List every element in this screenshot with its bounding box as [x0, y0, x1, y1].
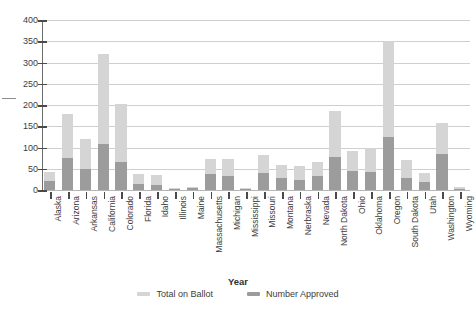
legend-label: Number Approved	[266, 289, 339, 299]
chart-legend: Total on BallotNumber Approved	[0, 289, 476, 299]
x-axis-category-label-text: Arkansas	[90, 196, 99, 231]
bar-group	[149, 20, 167, 190]
y-axis-tick-label: 200	[23, 101, 38, 110]
x-axis-category-label: Mississippi	[251, 155, 260, 196]
x-axis-category-label: Maine	[197, 173, 206, 196]
x-axis-category-label-text: Utah	[429, 196, 438, 214]
bar-number-approved	[329, 157, 340, 190]
x-axis-category-labels: AlaskaArizonaArkansasCaliforniaColoradoF…	[42, 196, 470, 272]
x-axis-category-label-text: North Dakota	[340, 196, 349, 246]
legend-item[interactable]: Total on Ballot	[137, 289, 213, 299]
x-axis-category-label-text: Massachusetts	[215, 196, 224, 253]
x-axis-category-label: Alaska	[54, 170, 63, 196]
x-axis-category-label: Illinois	[179, 172, 188, 196]
x-axis-category-label-text: Oregon	[393, 196, 402, 224]
bar-number-approved	[205, 174, 216, 190]
x-axis-category-label: Michigan	[233, 162, 242, 196]
x-axis-category-label-text: Nevada	[322, 196, 331, 225]
x-axis-category-label: Utah	[429, 178, 438, 196]
x-axis-category-label: Massachusetts	[215, 139, 224, 196]
y-axis-tick-labels: 050100150200250300350400	[10, 13, 38, 191]
x-axis-category-label: Arizona	[72, 167, 81, 196]
bar-number-approved	[98, 144, 109, 190]
x-axis-category-label-text: Montana	[286, 196, 295, 229]
x-axis-category-label-text: Washington	[447, 196, 456, 241]
x-axis-category-label-text: California	[108, 196, 117, 232]
x-axis-category-label: California	[108, 160, 117, 196]
x-axis-category-label-text: Nerbraska	[304, 196, 313, 235]
x-axis-category-label: Washington	[447, 151, 456, 196]
x-axis-category-label-text: Ohio	[358, 196, 367, 214]
legend-swatch-icon	[137, 292, 150, 296]
x-axis-category-label: Florida	[144, 170, 153, 196]
x-axis-title: Year	[0, 276, 476, 287]
x-axis-category-label: Oregon	[393, 168, 402, 196]
bar-group	[42, 20, 60, 190]
y-axis-tick-label: 100	[23, 143, 38, 152]
y-axis-tick-label: 400	[23, 16, 38, 25]
x-axis-category-label-text: Oklahoma	[375, 196, 384, 235]
bar-group	[167, 20, 185, 190]
x-axis-category-label-text: Arizona	[72, 196, 81, 225]
x-axis-category-label: Idaho	[161, 175, 170, 196]
x-axis-category-label-text: Idaho	[161, 196, 170, 217]
bar-group	[60, 20, 78, 190]
x-axis-category-label: South Dakota	[411, 144, 420, 196]
y-axis-tick-label: 50	[28, 164, 38, 173]
x-axis-category-label-text: South Dakota	[411, 196, 420, 248]
x-axis-category-label-text: Alaska	[54, 196, 63, 222]
x-axis-category-label: Colorado	[126, 162, 135, 197]
x-axis-category-label: Ohio	[358, 178, 367, 196]
x-axis-category-label-text: Illinois	[179, 196, 188, 220]
bar-number-approved	[222, 176, 233, 190]
x-axis-category-label: Montana	[286, 163, 295, 196]
x-axis-category-label: Wyoming	[465, 161, 474, 196]
y-axis-tick-mark	[38, 190, 47, 192]
bar-chart: 050100150200250300350400 AlaskaArizonaAr…	[0, 0, 476, 314]
x-axis-category-label-text: Florida	[144, 196, 153, 222]
legend-item[interactable]: Number Approved	[247, 289, 339, 299]
legend-swatch-icon	[247, 292, 260, 296]
y-axis-tick-label: 150	[23, 122, 38, 131]
x-axis-category-label: Arkansas	[90, 161, 99, 196]
y-axis-tick-label: 250	[23, 79, 38, 88]
x-axis-category-label-text: Michigan	[233, 196, 242, 230]
x-axis-category-label: Oklahoma	[375, 157, 384, 196]
x-axis-category-label-text: Maine	[197, 196, 206, 219]
bar-group	[185, 20, 203, 190]
bar-number-approved	[115, 162, 126, 190]
x-axis-category-label-text: Wyoming	[465, 196, 474, 231]
x-axis-category-label-text: Missouri	[268, 196, 277, 228]
x-axis-category-label-text: Colorado	[126, 196, 135, 231]
x-axis-category-label: North Dakota	[340, 146, 349, 196]
x-axis-category-label: Nevada	[322, 167, 331, 196]
y-axis-tick-label: 350	[23, 37, 38, 46]
x-axis-category-label-text: Mississippi	[251, 196, 260, 237]
legend-label: Total on Ballot	[156, 289, 213, 299]
x-axis-category-label: Missouri	[268, 164, 277, 196]
bar-number-approved	[436, 154, 447, 190]
x-axis-category-label: Nerbraska	[304, 157, 313, 196]
bar-number-approved	[419, 182, 430, 190]
bar-number-approved	[312, 176, 323, 190]
y-axis-tick-label: 300	[23, 58, 38, 67]
